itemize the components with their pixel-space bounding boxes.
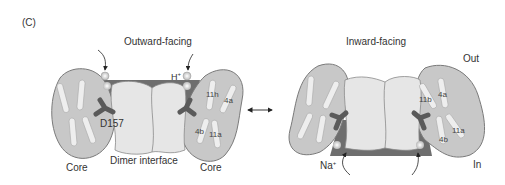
inward-facing-title: Inward-facing xyxy=(346,37,406,47)
proton-label: H+ xyxy=(171,71,181,82)
helix-label-11a: 11a xyxy=(209,131,222,139)
sodium-ion-left xyxy=(333,141,341,149)
core-label-left: Core xyxy=(66,163,88,173)
transporter-diagram xyxy=(0,0,505,185)
helix-label-4a-inward: 4a xyxy=(438,91,447,99)
helix-label-11a-inward: 11a xyxy=(452,127,465,135)
residue-label: D157 xyxy=(100,119,124,129)
outward-facing-state xyxy=(52,50,243,161)
sodium-label: Na+ xyxy=(320,160,336,171)
proton-ion-left-top xyxy=(101,72,109,80)
outward-facing-title: Outward-facing xyxy=(124,37,192,47)
panel-label: (C) xyxy=(22,18,36,28)
ion-entry-arrow-right xyxy=(188,54,193,70)
proton-charge: + xyxy=(178,71,182,77)
ion-entry-arrow-left xyxy=(98,50,105,70)
in-label: In xyxy=(473,160,481,170)
helix-label-4a: 4a xyxy=(224,97,233,105)
sodium-entry-arrow-left xyxy=(343,153,350,175)
helix-label-11b: 11b xyxy=(419,96,432,104)
sodium-entry-arrow-right xyxy=(412,153,418,175)
out-label: Out xyxy=(463,54,479,64)
proton-ion-left-bound xyxy=(103,82,111,90)
dimer-interface-right xyxy=(344,77,421,151)
proton-ion-right-bound xyxy=(183,82,191,90)
helix-label-11h: 11h xyxy=(206,91,219,99)
inward-facing-state xyxy=(289,64,485,175)
core-label-right: Core xyxy=(200,163,222,173)
helix-label-4b-inward: 4b xyxy=(439,136,448,144)
sodium-charge: + xyxy=(333,160,337,166)
helix-label-4b: 4b xyxy=(195,128,204,136)
proton-ion-right-top xyxy=(183,72,191,80)
sodium-symbol: Na xyxy=(320,160,333,171)
sodium-ion-right xyxy=(416,141,424,149)
dimer-interface-label: Dimer interface xyxy=(110,156,178,166)
